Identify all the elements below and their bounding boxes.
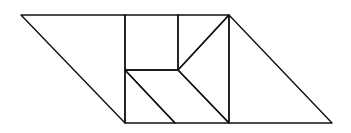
parallelogram [125, 70, 229, 123]
medium-triangle-right [178, 15, 229, 123]
tangram-parallelogram-diagram [0, 0, 351, 133]
square [125, 15, 178, 70]
left-large-triangle [21, 15, 125, 123]
right-large-triangle [229, 15, 332, 123]
